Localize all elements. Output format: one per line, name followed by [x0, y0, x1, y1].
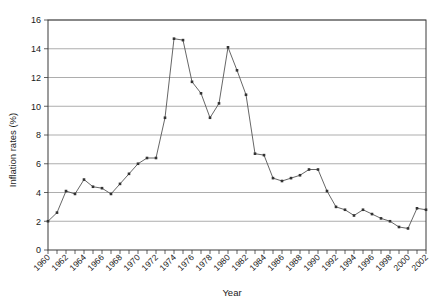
- data-point-marker: [290, 177, 293, 180]
- data-point-marker: [416, 207, 419, 210]
- x-tick-label: 1962: [49, 252, 70, 273]
- y-tick-label: 16: [31, 15, 41, 25]
- data-point-marker: [74, 193, 77, 196]
- data-point-marker: [263, 154, 266, 157]
- data-point-marker: [47, 220, 50, 223]
- data-point-marker: [236, 69, 239, 72]
- x-tick-label: 1980: [211, 252, 232, 273]
- x-tick-label: 2000: [391, 252, 412, 273]
- y-axis-title: Inflation rates (%): [7, 113, 18, 187]
- chart-canvas: 0246810121416 19601962196419661968197019…: [0, 0, 442, 306]
- data-point-marker: [254, 152, 257, 155]
- data-point-marker: [56, 211, 59, 214]
- x-tick-label: 1972: [139, 252, 160, 273]
- data-point-marker: [128, 173, 131, 176]
- data-point-marker: [65, 190, 68, 193]
- data-point-marker: [272, 177, 275, 180]
- data-point-marker: [398, 226, 401, 229]
- data-point-marker: [164, 116, 167, 119]
- data-point-marker: [173, 37, 176, 40]
- data-point-marker: [119, 183, 122, 186]
- x-tick-label: 1990: [301, 252, 322, 273]
- data-point-marker: [101, 187, 104, 190]
- data-point-marker: [227, 46, 230, 49]
- inflation-rates-line-chart: 0246810121416 19601962196419661968197019…: [0, 0, 442, 306]
- data-point-marker: [407, 227, 410, 230]
- data-point-marker: [371, 213, 374, 216]
- data-series: [47, 37, 428, 229]
- data-point-marker: [362, 208, 365, 211]
- x-tick-label: 1976: [175, 252, 196, 273]
- x-tick-label: 1988: [283, 252, 304, 273]
- data-point-marker: [326, 190, 329, 193]
- data-point-marker: [389, 220, 392, 223]
- data-point-marker: [308, 168, 311, 171]
- x-tick-label: 1986: [265, 252, 286, 273]
- data-point-marker: [209, 116, 212, 119]
- data-point-marker: [245, 93, 248, 96]
- x-tick-label: 1960: [31, 252, 52, 273]
- x-axis-ticks: 1960196219641966196819701972197419761978…: [31, 250, 430, 273]
- y-tick-label: 2: [36, 217, 41, 227]
- data-point-marker: [146, 157, 149, 160]
- y-tick-label: 10: [31, 102, 41, 112]
- x-tick-label: 1966: [85, 252, 106, 273]
- x-tick-label: 1964: [67, 252, 88, 273]
- x-tick-label: 1996: [355, 252, 376, 273]
- x-tick-label: 1978: [193, 252, 214, 273]
- x-tick-label: 1998: [373, 252, 394, 273]
- gridlines: [48, 20, 426, 221]
- data-point-marker: [425, 208, 428, 211]
- x-axis-title: Year: [222, 287, 241, 298]
- x-tick-label: 1974: [157, 252, 178, 273]
- data-point-marker: [155, 157, 158, 160]
- data-point-marker: [83, 178, 86, 181]
- data-point-marker: [137, 162, 140, 165]
- x-tick-label: 1970: [121, 252, 142, 273]
- y-tick-label: 0: [36, 245, 41, 255]
- axis-titles: Inflation rates (%) Year: [7, 113, 242, 298]
- data-point-marker: [344, 208, 347, 211]
- x-tick-label: 1968: [103, 252, 124, 273]
- data-point-marker: [182, 39, 185, 42]
- data-point-marker: [317, 168, 320, 171]
- y-tick-label: 8: [36, 130, 41, 140]
- y-tick-label: 6: [36, 159, 41, 169]
- x-tick-label: 1982: [229, 252, 250, 273]
- y-tick-label: 14: [31, 44, 41, 54]
- data-point-marker: [380, 217, 383, 220]
- x-tick-label: 1984: [247, 252, 268, 273]
- y-tick-label: 12: [31, 73, 41, 83]
- y-axis-ticks: 0246810121416: [31, 15, 48, 255]
- x-tick-label: 1994: [337, 252, 358, 273]
- data-point-marker: [281, 180, 284, 183]
- data-point-marker: [200, 92, 203, 95]
- data-point-marker: [218, 102, 221, 105]
- data-point-marker: [299, 174, 302, 177]
- series-line-inflation-rate: [48, 39, 426, 229]
- x-tick-label: 2002: [409, 252, 430, 273]
- data-point-marker: [110, 193, 113, 196]
- y-tick-label: 4: [36, 188, 41, 198]
- data-point-marker: [353, 214, 356, 217]
- x-tick-label: 1992: [319, 252, 340, 273]
- data-point-marker: [191, 81, 194, 84]
- data-point-marker: [92, 185, 95, 188]
- data-point-marker: [335, 206, 338, 209]
